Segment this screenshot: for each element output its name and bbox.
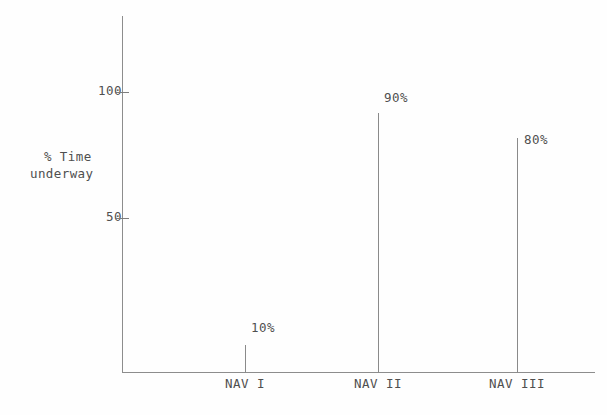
x-axis-line [122, 372, 595, 373]
y-axis-title-line-1: % Time [30, 148, 120, 165]
x-category-label-nav-ii: NAV II [354, 378, 402, 391]
y-tick-mark-50 [116, 218, 129, 219]
y-tick-group-50: 50 [0, 218, 122, 219]
x-category-label-nav-iii: NAV III [489, 378, 545, 391]
y-axis-line [122, 16, 123, 373]
x-tick-nav-ii [378, 362, 379, 373]
chart-figure: % Time underway 100 50 10% NAV I 90% NAV… [0, 0, 607, 415]
y-tick-group-100: 100 [0, 92, 122, 93]
bar-value-nav-i: 10% [251, 322, 275, 335]
plot-area: % Time underway 100 50 10% NAV I 90% NAV… [0, 0, 607, 415]
bar-value-nav-ii: 90% [384, 92, 408, 105]
y-axis-title: % Time underway [30, 148, 120, 182]
y-axis-title-line-2: underway [30, 165, 120, 182]
x-tick-nav-i [245, 362, 246, 373]
y-tick-mark-100 [116, 92, 129, 93]
bar-value-nav-iii: 80% [524, 134, 548, 147]
bar-nav-ii [378, 113, 379, 372]
bar-nav-iii [517, 138, 518, 372]
x-category-label-nav-i: NAV I [225, 378, 265, 391]
x-tick-nav-iii [517, 362, 518, 373]
